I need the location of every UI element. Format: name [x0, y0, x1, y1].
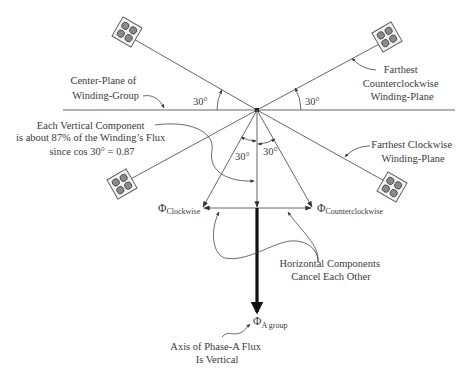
angle-arc-upper-left: [217, 90, 222, 110]
angle-arc-lower-left: [241, 137, 256, 141]
phi-a-group-label: ΦA group: [253, 315, 287, 330]
winding-flux-diagram: 30° 30° 30° 30° Center-Plane of Winding-…: [0, 0, 473, 382]
farthest-cw-leader: [345, 146, 370, 157]
angle-arc-lower-right: [258, 139, 275, 144]
phi-clockwise-label: ΦClockwise: [158, 202, 201, 216]
center-plane-label: Center-Plane of Winding-Group: [70, 75, 139, 101]
angle-arc-upper-right: [295, 88, 301, 110]
horizontal-cancel-leader-left: [213, 212, 318, 262]
coil-lower-left: [107, 169, 137, 199]
phi-counterclockwise-label: ΦCounterclockwise: [317, 202, 384, 216]
vertical-component-label: Each Vertical Component is about 87% of …: [16, 120, 168, 157]
horizontal-cancel-leader-right: [288, 212, 318, 262]
angle-label-lower-right: 30°: [263, 146, 278, 157]
angle-label-upper-right: 30°: [305, 96, 320, 107]
upper-right-winding-plane: [257, 42, 383, 110]
coil-upper-left: [112, 17, 142, 47]
farthest-ccw-leader: [352, 58, 376, 70]
axis-phase-a-leader: [222, 324, 250, 337]
angle-label-lower-left: 30°: [235, 151, 250, 162]
axis-phase-a-label: Axis of Phase-A Flux Is Vertical: [170, 341, 263, 365]
center-plane-leader: [143, 96, 164, 108]
horizontal-components-label: Horizontal Components Cancel Each Other: [279, 258, 382, 282]
coil-lower-right: [377, 172, 407, 202]
flux-counterclockwise-vector: [257, 110, 312, 207]
coil-upper-right: [372, 22, 402, 52]
farthest-cw-label: Farthest Clockwise Winding-Plane: [371, 139, 454, 164]
angle-label-upper-left: 30°: [193, 96, 208, 107]
